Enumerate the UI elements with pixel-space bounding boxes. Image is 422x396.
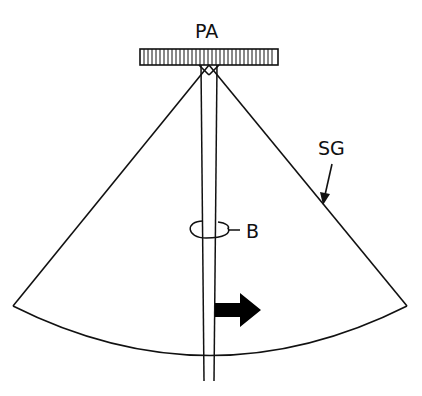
steering-arrow-icon — [215, 293, 261, 327]
sector-scan-diagram: PA — [0, 0, 422, 396]
label-sg: SG — [318, 137, 345, 159]
label-pa: PA — [195, 20, 218, 42]
sector-outline — [13, 65, 407, 356]
beam — [201, 65, 217, 381]
label-b: B — [246, 220, 259, 242]
probe-array — [140, 49, 278, 65]
sg-pointer-arrow — [320, 164, 332, 205]
